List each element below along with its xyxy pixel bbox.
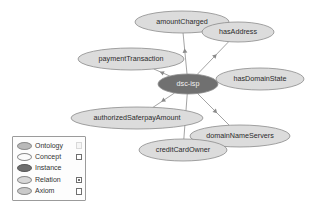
node-hasAddress[interactable]: hasAddress [202,22,274,42]
legend-swatch-concept-icon [17,153,32,161]
node-hasDomainState[interactable]: hasDomainState [216,68,304,90]
node-label-domainNameServers: domainNameServers [206,131,274,140]
edge-dsc-isp-to-hasAddress [197,42,229,75]
legend-swatch-axiom-icon [17,187,32,195]
node-label-amountCharged: amountCharged [156,17,208,26]
legend-checkbox-relation[interactable] [76,177,83,184]
edge-dsc-isp-to-amountCharged [183,33,187,74]
legend-swatch-relation-icon [17,176,32,184]
legend-row-instance[interactable]: Instance [17,163,82,174]
legend-checkbox-concept[interactable] [76,154,83,161]
legend-checkbox-ontology[interactable] [76,142,83,149]
legend-row-axiom[interactable]: Axiom [17,186,82,197]
node-paymentTransaction[interactable]: paymentTransaction [78,48,184,70]
node-label-paymentTransaction: paymentTransaction [99,54,164,63]
legend-row-concept[interactable]: Concept [17,151,82,162]
legend-label-relation: Relation [35,175,74,185]
node-label-authorizedSaferpayAmount: authorizedSaferpayAmount [93,113,180,122]
legend-row-relation[interactable]: Relation [17,174,82,185]
node-authorizedSaferpayAmount[interactable]: authorizedSaferpayAmount [71,107,203,129]
node-label-hasDomainState: hasDomainState [233,74,286,83]
legend-label-instance: Instance [35,163,74,173]
legend-checkbox-axiom[interactable] [76,188,83,195]
legend-swatch-instance-icon [17,164,32,172]
legend-row-ontology[interactable]: Ontology [17,140,82,151]
arrowhead-amountCharged [183,49,188,53]
arrowhead-authorizedSaferpayAmount [161,98,166,102]
node-creditCardOwner[interactable]: creditCardOwner [139,139,227,161]
node-label-hasAddress: hasAddress [219,27,257,36]
node-dsc-isp[interactable]: dsc-isp [158,74,218,94]
node-label-dsc-isp: dsc-isp [177,79,200,88]
legend-swatch-ontology-icon [17,142,32,150]
edge-dsc-isp-to-domainNameServers [197,93,229,125]
legend-label-concept: Concept [35,152,74,162]
node-layer: amountChargedhasAddresspaymentTransactio… [71,11,304,161]
legend-panel: OntologyConceptInstanceRelationAxiom [12,136,86,201]
node-label-creditCardOwner: creditCardOwner [156,145,211,154]
legend-label-ontology: Ontology [35,141,74,151]
legend-label-axiom: Axiom [35,186,74,196]
